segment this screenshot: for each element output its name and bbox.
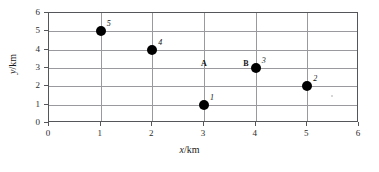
x-tick-label-4: 4 <box>245 128 265 138</box>
axis-unit: /km <box>184 144 200 155</box>
x-tick-label-6: 6 <box>348 128 368 138</box>
x-tick-label-5: 5 <box>296 128 316 138</box>
y-tick-mark <box>44 67 48 68</box>
axis-variable: y <box>7 70 18 74</box>
data-point-4[interactable] <box>147 45 157 55</box>
x-tick-mark <box>100 122 101 126</box>
x-tick-mark <box>255 122 256 126</box>
data-point-1[interactable] <box>199 100 209 110</box>
x-tick-label-2: 2 <box>141 128 161 138</box>
axis-unit: /km <box>7 54 18 70</box>
y-tick-mark <box>44 30 48 31</box>
y-tick-mark <box>44 104 48 105</box>
y-tick-label-3: 3 <box>22 62 40 72</box>
x-tick-label-0: 0 <box>38 128 58 138</box>
y-tick-mark <box>44 49 48 50</box>
y-tick-label-2: 2 <box>22 80 40 90</box>
y-tick-mark <box>44 85 48 86</box>
x-tick-mark <box>151 122 152 126</box>
data-point-3[interactable] <box>251 63 261 73</box>
gridline-horizontal <box>49 68 357 69</box>
scatter-plot-figure: AB54321 x/km y/km 01234560123456 <box>0 0 379 172</box>
y-tick-label-0: 0 <box>22 117 40 127</box>
plot-area: AB54321 <box>48 12 358 122</box>
y-tick-label-6: 6 <box>22 7 40 17</box>
region-label-a: A <box>201 60 207 68</box>
y-tick-label-1: 1 <box>22 99 40 109</box>
y-tick-mark <box>44 12 48 13</box>
gridline-vertical <box>152 13 153 121</box>
scan-artifact-speck <box>331 95 333 97</box>
x-tick-mark <box>306 122 307 126</box>
data-point-label-3: 3 <box>262 57 266 65</box>
y-tick-label-5: 5 <box>22 25 40 35</box>
data-point-label-4: 4 <box>158 39 162 47</box>
gridline-horizontal <box>49 50 357 51</box>
data-point-label-2: 2 <box>313 75 317 83</box>
y-axis-title: y/km <box>7 34 19 94</box>
gridline-vertical <box>307 13 308 121</box>
region-label-b: B <box>243 60 248 68</box>
x-tick-mark <box>48 122 49 126</box>
data-point-label-1: 1 <box>210 94 214 102</box>
x-tick-mark <box>358 122 359 126</box>
y-tick-mark <box>44 122 48 123</box>
data-point-2[interactable] <box>302 81 312 91</box>
x-axis-title: x/km <box>0 144 379 156</box>
x-tick-label-3: 3 <box>193 128 213 138</box>
data-point-5[interactable] <box>96 26 106 36</box>
x-tick-label-1: 1 <box>90 128 110 138</box>
y-tick-label-4: 4 <box>22 44 40 54</box>
x-tick-mark <box>203 122 204 126</box>
data-point-label-5: 5 <box>107 20 111 28</box>
